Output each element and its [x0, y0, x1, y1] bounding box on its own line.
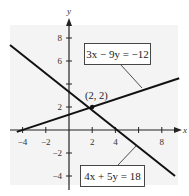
y-axis-label: y — [66, 6, 71, 16]
chart-canvas: −4 −2 2 4 8 8 6 2 −2 −4 y x (2, 2) 3x − … — [0, 0, 189, 196]
intersection-label: (2, 2) — [85, 90, 108, 102]
x-tick-label: 4 — [113, 137, 118, 147]
x-tick-label: −4 — [18, 137, 28, 147]
y-tick-label: −4 — [52, 171, 62, 181]
intersection-point-marker — [90, 105, 94, 109]
equation-label-1: 3x − 9y = −12 — [86, 48, 149, 60]
x-tick-label: −2 — [41, 137, 51, 147]
y-axis-arrow-icon — [66, 18, 72, 26]
y-tick-label: −2 — [52, 148, 62, 158]
x-tick-label: 8 — [160, 137, 165, 147]
x-tick-label: 2 — [90, 137, 95, 147]
y-tick-label: 6 — [58, 56, 63, 66]
y-tick-label: 8 — [58, 33, 63, 43]
equation-label-2: 4x + 5y = 18 — [84, 170, 141, 182]
y-tick-label: 2 — [58, 102, 63, 112]
x-axis-label: x — [182, 125, 187, 135]
